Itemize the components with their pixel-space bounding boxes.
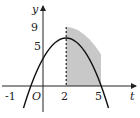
t-axis-label: t [130,90,135,103]
origin-label: O [32,90,41,103]
tick-label-5: 5 [95,90,102,103]
diagram: y t O -1 2 5 9 5 [0,0,140,118]
y-axis-label: y [31,3,39,16]
tick-label-2: 2 [61,90,68,103]
shaded-area [66,27,101,86]
tick-label-neg1: -1 [5,90,16,103]
tick-label-y5: 5 [34,40,41,53]
tick-label-9: 9 [31,21,38,34]
